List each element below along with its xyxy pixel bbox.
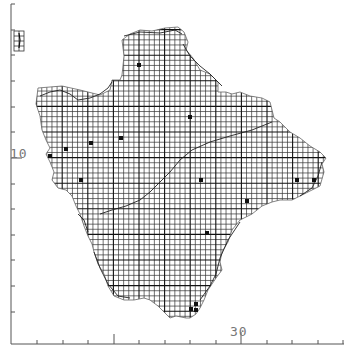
record-dot: [245, 199, 249, 203]
record-dot: [205, 231, 209, 235]
y-axis-label: 10: [10, 146, 28, 161]
record-dot: [295, 178, 299, 182]
distribution-map: [0, 0, 344, 345]
record-dot: [137, 63, 141, 67]
record-dot: [194, 302, 198, 306]
record-dot: [119, 136, 123, 140]
x-axis: [11, 332, 344, 344]
record-dot: [48, 154, 52, 158]
y-axis: [11, 4, 22, 344]
record-dot: [199, 178, 203, 182]
record-dot: [189, 307, 193, 311]
x-axis-label: 30: [230, 324, 248, 339]
record-dot: [79, 178, 83, 182]
tetrad-grid: [0, 0, 344, 345]
inset-island-lundy: [14, 31, 24, 51]
record-dot: [64, 147, 68, 151]
record-dot: [194, 308, 198, 312]
record-dot: [89, 141, 93, 145]
record-dot: [312, 178, 316, 182]
record-dot: [188, 115, 192, 119]
